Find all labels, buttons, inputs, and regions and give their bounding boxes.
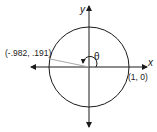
x-axis-label: x <box>147 57 154 68</box>
point-label-one-zero: (1, 0) <box>128 72 148 82</box>
y-axis-label: y <box>79 4 86 15</box>
point-label-cos-sin: (-.982, .191) <box>5 48 51 58</box>
theta-label: θ <box>94 51 100 62</box>
unit-circle-diagram: y x θ (-.982, .191) (1, 0) <box>0 0 157 132</box>
